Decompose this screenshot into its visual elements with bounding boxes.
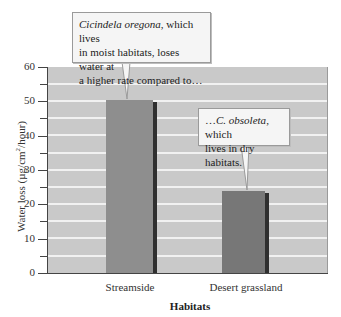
species-name: C. obsoleta — [216, 114, 266, 126]
species-name: Cicindela oregona — [79, 18, 161, 30]
callout-desert-grassland: …C. obsoleta, which lives in dry habitat… — [198, 108, 290, 146]
callout-streamside: Cicindela oregona, which lives in moist … — [72, 12, 211, 63]
callout-text: … — [205, 114, 216, 126]
callout-line: …C. obsoleta, which — [205, 113, 283, 141]
callout-line: in moist habitats, loses water at — [79, 45, 204, 73]
callout-line: a higher rate compared to… — [79, 73, 204, 87]
callout-line: lives in dry habitats. — [205, 141, 283, 169]
callout-line: Cicindela oregona, which lives — [79, 17, 204, 45]
